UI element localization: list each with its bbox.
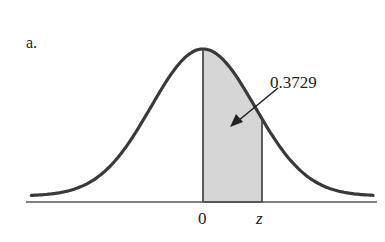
tick-label-zero: 0 (198, 209, 207, 228)
area-value-label: 0.3729 (270, 73, 317, 92)
normal-distribution-figure: a. 0.3729 0 z (0, 0, 385, 242)
tick-label-z: z (255, 209, 263, 228)
figure-canvas: a. 0.3729 0 z (0, 0, 385, 242)
panel-label: a. (26, 34, 37, 51)
